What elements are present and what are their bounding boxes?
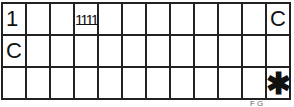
star-icon-cell[interactable]: ✱	[267, 68, 291, 100]
board-cell[interactable]	[171, 4, 195, 36]
board-cell[interactable]	[3, 68, 27, 100]
board-cell[interactable]	[99, 36, 123, 68]
board-cell[interactable]	[27, 68, 51, 100]
board-cell[interactable]	[267, 36, 291, 68]
board-cell[interactable]: C	[267, 4, 291, 36]
board-cell[interactable]	[51, 68, 75, 100]
board-cell[interactable]	[147, 36, 171, 68]
board-cell[interactable]: 1111	[75, 4, 99, 36]
board-cell[interactable]	[195, 68, 219, 100]
board-cell[interactable]	[195, 36, 219, 68]
board-cell[interactable]: C	[3, 36, 27, 68]
board-cell[interactable]	[75, 68, 99, 100]
board-cell[interactable]	[99, 4, 123, 36]
board-cell[interactable]	[243, 68, 267, 100]
board-cell[interactable]	[171, 68, 195, 100]
board-cell[interactable]	[27, 36, 51, 68]
board-cell[interactable]	[27, 4, 51, 36]
board-cell[interactable]	[147, 68, 171, 100]
board-cell[interactable]: 1	[3, 4, 27, 36]
board-cell[interactable]	[219, 36, 243, 68]
board-cell[interactable]	[75, 36, 99, 68]
board-cell[interactable]	[51, 4, 75, 36]
board-cell[interactable]	[147, 4, 171, 36]
board-cell[interactable]	[243, 4, 267, 36]
board-cell[interactable]	[123, 36, 147, 68]
board-cell[interactable]	[51, 36, 75, 68]
board-cell[interactable]	[219, 68, 243, 100]
board-cell[interactable]	[195, 4, 219, 36]
board-cell[interactable]	[123, 68, 147, 100]
board-cell[interactable]	[243, 36, 267, 68]
game-board: 11111CC✱	[1, 2, 291, 100]
board-cell[interactable]	[219, 4, 243, 36]
footer-text: F G	[250, 99, 263, 107]
board-cell[interactable]	[171, 36, 195, 68]
board-cell[interactable]	[123, 4, 147, 36]
board-cell[interactable]	[99, 68, 123, 100]
